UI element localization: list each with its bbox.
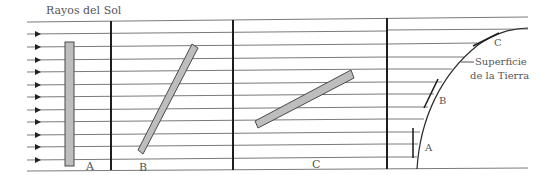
panel-b-bar bbox=[138, 44, 198, 154]
earth-surface-c-label: C bbox=[494, 37, 502, 48]
panel-b-label: B bbox=[139, 161, 147, 174]
panel-a-bar bbox=[65, 42, 74, 166]
earth-label-line1: Superficie bbox=[475, 56, 527, 67]
earth-surface-curve bbox=[417, 28, 528, 169]
diagram-title: Rayos del Sol bbox=[46, 4, 122, 17]
panel-c-label: C bbox=[312, 158, 320, 171]
bottom-line bbox=[27, 168, 528, 171]
sun-rays bbox=[27, 31, 387, 160]
sun-rays-diagram: Rayos del Sol bbox=[0, 0, 555, 175]
top-line bbox=[27, 17, 528, 22]
earth-label-line2: de la Tierra bbox=[470, 70, 529, 81]
earth-surface-b-label: B bbox=[439, 95, 446, 106]
earth-rays bbox=[387, 29, 528, 157]
earth-surface-a-label: A bbox=[424, 142, 433, 153]
ray-arrowheads bbox=[35, 31, 41, 163]
panel-a-label: A bbox=[85, 160, 95, 173]
